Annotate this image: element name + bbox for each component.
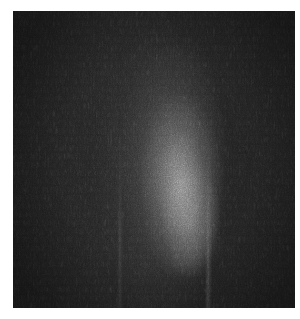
vignette	[13, 11, 295, 308]
micrograph-image: Grayscale noisy micrograph with bright e…	[13, 11, 295, 308]
